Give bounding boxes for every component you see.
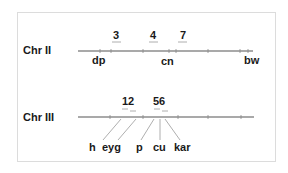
- gene-bw: bw: [244, 54, 259, 66]
- marker-7: 7: [180, 29, 186, 41]
- gene-kar: kar: [174, 141, 191, 153]
- marker-4: 4: [150, 29, 156, 41]
- marker-12: 12: [122, 95, 134, 107]
- gene-cu: cu: [153, 141, 166, 153]
- chromosome-lines: [0, 0, 288, 173]
- gene-h: h: [89, 141, 96, 153]
- marker-3: 3: [113, 29, 119, 41]
- gene-cn: cn: [161, 55, 174, 67]
- gene-p: p: [136, 141, 143, 153]
- chr-iii-label: Chr III: [23, 111, 54, 123]
- gene-dp: dp: [92, 54, 105, 66]
- marker-56: 56: [153, 95, 165, 107]
- gene-eyg: eyg: [102, 141, 121, 153]
- chr-ii-label: Chr II: [23, 44, 51, 56]
